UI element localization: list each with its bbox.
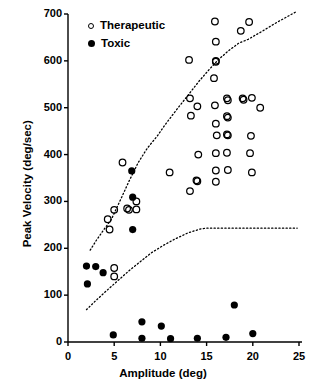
axis-lines [68,14,302,342]
therapeutic-data-point [119,159,126,166]
therapeutic-data-point [104,216,111,223]
legend-item-toxic: Toxic [88,38,130,50]
therapeutic-data-point [237,28,244,35]
therapeutic-data-point [195,151,202,158]
therapeutic-data-point [224,149,231,156]
therapeutic-data-point [212,18,219,25]
therapeutic-data-point [246,19,253,26]
therapeutic-data-point [187,95,194,102]
therapeutic-data-point [249,95,256,102]
therapeutic-data-point [212,102,219,109]
therapeutic-data-point [111,207,118,214]
toxic-data-point [92,263,99,270]
boundary-curves [86,11,297,309]
toxic-data-point [110,331,117,338]
x-tick-label: 5 [99,351,129,362]
toxic-data-point [83,262,90,269]
y-axis-title: Peak Velocity (deg/sec) [22,94,34,274]
therapeutic-data-point [213,132,220,139]
therapeutic-data-point [111,265,118,272]
toxic-data-point [167,335,174,342]
therapeutic-data-point [133,206,140,213]
therapeutic-data-point [249,169,256,176]
y-tick-label: 0 [20,336,62,347]
toxic-data-point [129,226,136,233]
toxic-data-point [138,335,145,342]
toxic-data-point [100,269,107,276]
open-circle-icon [88,23,94,29]
therapeutic-data-point [213,178,220,185]
therapeutic-data-point [213,167,220,174]
toxic-data-point [128,167,135,174]
series-toxic-points [83,167,257,342]
x-tick-label: 15 [192,351,222,362]
therapeutic-data-point [225,167,232,174]
therapeutic-data-point [194,103,201,110]
therapeutic-data-point [111,273,118,280]
therapeutic-data-point [213,120,220,127]
therapeutic-data-point [186,57,193,64]
therapeutic-data-point [213,150,220,157]
therapeutic-data-point [106,226,113,233]
toxic-data-point [84,280,91,287]
toxic-data-point [249,330,256,337]
toxic-data-point [158,322,165,329]
toxic-data-point [222,334,229,341]
y-tick-label: 600 [20,55,62,66]
filled-circle-icon [88,40,95,47]
therapeutic-data-point [188,112,195,119]
therapeutic-data-point [213,38,220,45]
toxic-data-point [231,301,238,308]
series-therapeutic-points [104,18,263,280]
therapeutic-data-point [211,75,218,82]
legend-item-therapeutic: Therapeutic [88,20,165,32]
legend-label-therapeutic: Therapeutic [100,20,165,32]
y-tick-label: 700 [20,8,62,19]
therapeutic-data-point [187,188,194,195]
therapeutic-data-point [257,104,264,111]
x-axis-title: Amplitude (deg) [0,368,326,380]
tick-marks [64,14,299,346]
legend-label-toxic: Toxic [101,38,130,50]
therapeutic-data-point [166,169,173,176]
toxic-data-point [138,318,145,325]
toxic-data-point [194,335,201,342]
lower-boundary-curve [86,228,297,310]
scatter-plot-figure: 0100200300400500600700 0510152025 Amplit… [0,0,326,388]
therapeutic-data-point [126,207,133,214]
x-tick-label: 25 [284,351,314,362]
therapeutic-data-point [247,150,254,157]
y-tick-label: 100 [20,289,62,300]
x-tick-label: 0 [53,351,83,362]
x-tick-label: 20 [238,351,268,362]
toxic-data-point [129,194,136,201]
therapeutic-data-point [248,133,255,140]
x-tick-label: 10 [145,351,175,362]
